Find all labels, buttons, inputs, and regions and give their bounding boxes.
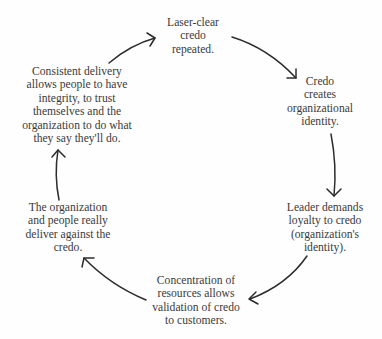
node-line: (organization's (287, 228, 363, 241)
node-line: allows people to have (22, 78, 132, 91)
node-credo-creates-identity: Credo creates organizational identity. (287, 75, 353, 129)
node-line: organizational (287, 102, 353, 115)
node-line: themselves and the (22, 105, 132, 118)
arrow-integrity-to-credo (109, 33, 155, 63)
node-line: Consistent delivery (22, 65, 132, 78)
node-line: and people really (26, 214, 111, 227)
node-line: they say they'll do. (22, 132, 132, 145)
node-line: creates (287, 88, 353, 101)
arrow-deliver-to-integrity (52, 150, 65, 200)
node-leader-demands-loyalty: Leader demands loyalty to credo (organiz… (287, 201, 363, 255)
node-line: identity). (287, 241, 363, 254)
node-line: The organization (26, 201, 111, 214)
node-line: loyalty to credo (287, 214, 363, 227)
node-line: identity. (287, 115, 353, 128)
node-line: integrity, to trust (22, 92, 132, 105)
arrow-identity-to-loyalty (327, 134, 341, 196)
arrow-loyalty-to-resources (249, 256, 307, 304)
node-line: deliver against the (26, 228, 111, 241)
node-consistent-delivery: Consistent delivery allows people to hav… (22, 65, 132, 145)
node-line: validation of credo (152, 301, 240, 314)
node-line: credo. (26, 241, 111, 254)
node-line: repeated. (167, 43, 219, 56)
node-organization-delivers: The organization and people really deliv… (26, 201, 111, 255)
arrow-credo-to-identity (232, 37, 296, 78)
node-laser-clear-credo: Laser-clear credo repeated. (167, 16, 219, 56)
arrow-resources-to-deliver (82, 258, 146, 300)
node-line: to customers. (152, 314, 240, 327)
node-line: Credo (287, 75, 353, 88)
node-concentration-of-resources: Concentration of resources allows valida… (152, 274, 240, 328)
node-line: credo (167, 29, 219, 42)
node-line: Laser-clear (167, 16, 219, 29)
node-line: Concentration of (152, 274, 240, 287)
node-line: resources allows (152, 287, 240, 300)
node-line: Leader demands (287, 201, 363, 214)
node-line: organization to do what (22, 119, 132, 132)
